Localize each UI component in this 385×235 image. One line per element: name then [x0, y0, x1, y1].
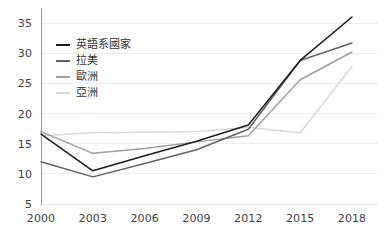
x-axis-tick-labels: 2000200320062009201220152018: [0, 0, 385, 235]
legend-label: 歐洲: [76, 71, 98, 83]
legend-swatch-icon: [56, 92, 70, 94]
x-tick-label: 2018: [338, 213, 366, 224]
x-tick-label: 2015: [286, 213, 314, 224]
legend-item[interactable]: 英語系國家: [56, 38, 131, 52]
x-tick-label: 2009: [182, 213, 210, 224]
legend-swatch-icon: [56, 44, 70, 46]
legend-item[interactable]: 拉美: [56, 54, 131, 68]
x-tick-label: 2003: [79, 213, 107, 224]
legend-item[interactable]: 歐洲: [56, 70, 131, 84]
legend-item[interactable]: 亞洲: [56, 86, 131, 100]
legend-label: 英語系國家: [76, 39, 131, 51]
legend-swatch-icon: [56, 60, 70, 62]
legend-label: 拉美: [76, 55, 98, 67]
x-tick-label: 2000: [27, 213, 55, 224]
x-tick-label: 2006: [130, 213, 158, 224]
x-tick-label: 2012: [234, 213, 262, 224]
chart-legend: 英語系國家拉美歐洲亞洲: [56, 38, 131, 100]
line-chart: 5101520253035 20002003200620092012201520…: [0, 0, 385, 235]
legend-swatch-icon: [56, 76, 70, 78]
legend-label: 亞洲: [76, 87, 98, 99]
